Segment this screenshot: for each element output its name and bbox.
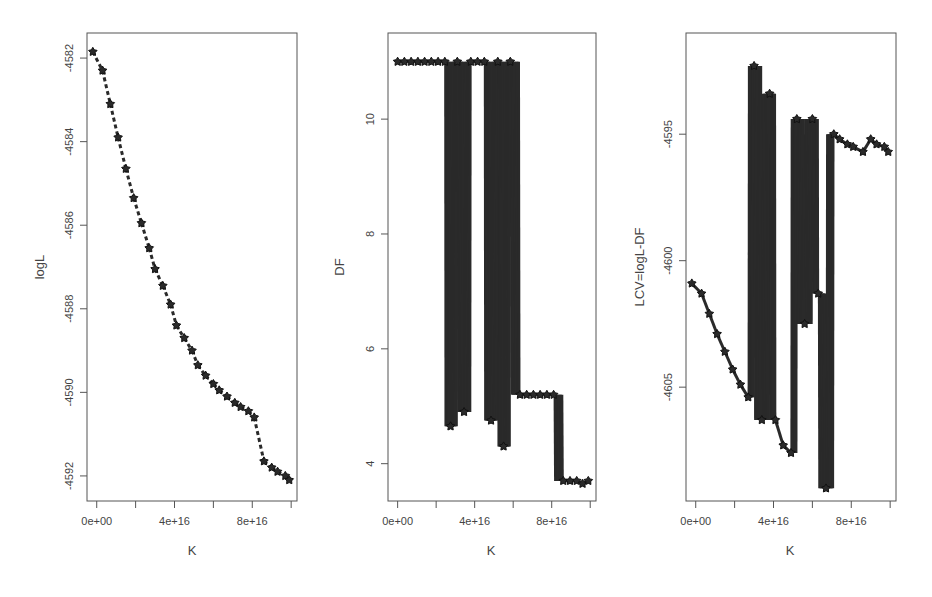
y-axis-label: DF [332,258,347,275]
x-tick-label: 0e+00 [81,515,112,527]
series-segment [118,137,126,168]
star-marker [453,57,462,65]
y-tick-label: -4605 [662,373,674,401]
star-marker [506,57,515,65]
series-segment [110,104,118,137]
star-marker [89,47,98,55]
x-axis-label: K [487,543,496,558]
y-tick-label: -4586 [63,211,75,239]
y-tick-label: -4582 [63,44,75,72]
x-axis: 0e+004e+168e+16 [680,501,890,527]
series-segment [126,169,134,198]
x-tick-label: 8e+16 [836,515,867,527]
y-tick-label: 4 [364,461,376,467]
star-marker [549,390,558,398]
y-tick-label: 10 [364,113,376,125]
data-series [89,47,294,483]
star-marker [779,441,788,449]
y-axis-label: LCV=logL-DF [632,227,647,306]
y-axis: 46810 [364,113,388,467]
star-marker [172,321,181,329]
star-marker [480,57,489,65]
x-tick-label: 8e+16 [237,515,268,527]
x-axis-label: K [188,543,197,558]
series-segment [254,417,264,461]
y-axis-label: logL [32,255,47,280]
star-marker [223,392,232,400]
panel-lcv: -4595-4600-4605 0e+004e+168e+16 K LCV=lo… [632,33,896,558]
y-tick-label: -4590 [63,378,75,406]
star-marker [793,115,802,123]
data-series [688,61,893,492]
star-marker [713,330,722,338]
figure-canvas: -4582-4584-4586-4588-4590-4592 0e+004e+1… [0,0,932,597]
y-tick-label: -4584 [63,128,75,156]
x-tick-label: 4e+16 [459,515,490,527]
y-tick-label: 6 [364,346,376,352]
x-tick-label: 4e+16 [758,515,789,527]
star-marker [129,194,138,202]
x-tick-label: 8e+16 [536,515,567,527]
star-marker [114,133,123,141]
star-marker [151,265,160,273]
y-tick-label: -4595 [662,120,674,148]
x-tick-label: 4e+16 [159,515,190,527]
star-marker [194,361,203,369]
star-marker [260,457,269,465]
star-marker [750,61,759,69]
star-marker [688,279,697,287]
series-segment [775,420,783,445]
x-tick-label: 0e+00 [680,515,711,527]
panel-loglikelihood: -4582-4584-4586-4588-4590-4592 0e+004e+1… [32,33,297,558]
star-marker [106,100,115,108]
y-tick-label: -4588 [63,295,75,323]
y-tick-label: -4592 [63,462,75,490]
y-tick-label: -4600 [662,247,674,275]
series-segment [134,198,142,223]
star-marker [166,300,175,308]
plot-frame [87,33,297,501]
x-axis: 0e+004e+168e+16 [81,501,291,527]
star-marker [705,309,714,317]
star-marker [584,476,593,484]
y-axis: -4595-4600-4605 [662,120,686,401]
x-axis-label: K [786,543,795,558]
star-marker [145,244,154,252]
star-marker [441,57,450,65]
y-axis: -4582-4584-4586-4588-4590-4592 [63,44,87,490]
data-series [393,57,592,487]
x-axis: 0e+004e+168e+16 [382,501,590,527]
x-tick-label: 0e+00 [382,515,413,527]
series-segment [103,71,111,104]
star-marker [122,164,131,172]
panel-degrees-of-freedom: 46810 0e+004e+168e+16 K DF [332,33,596,558]
y-tick-label: 8 [364,231,376,237]
series-segment [141,223,149,248]
star-marker [137,219,146,227]
